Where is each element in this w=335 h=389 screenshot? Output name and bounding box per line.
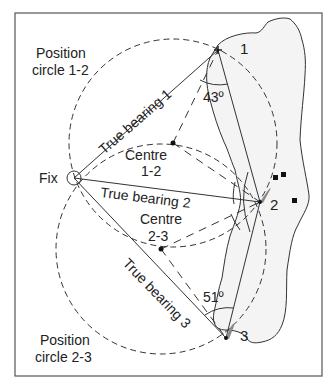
fix-label: Fix <box>39 170 58 186</box>
position-circle-2-3-label-line2: circle 2-3 <box>35 349 92 365</box>
true-bearing-2-label: True bearing 2 <box>100 184 192 211</box>
angle-51-label: 51º <box>203 289 224 305</box>
position-circle-1-2-label-line2: circle 1-2 <box>32 62 89 78</box>
centre-2-3-label-line1: Centre <box>140 211 182 227</box>
centre-1-2-label-line1: Centre <box>125 147 167 163</box>
angle-43-label: 43º <box>203 89 224 105</box>
centre-2-3-dot <box>159 247 164 252</box>
point-3-label: 3 <box>240 327 248 344</box>
centre-2-3-label-line2: 2-3 <box>148 228 168 244</box>
building-icon <box>273 175 278 180</box>
centre-1-2-label-line2: 1-2 <box>141 163 161 179</box>
position-circle-2-3-label-line1: Position <box>40 332 90 348</box>
diagram-canvas: Position circle 1-2 Position circle 2-3 … <box>0 0 335 389</box>
point-2-label: 2 <box>270 196 278 213</box>
building-icon <box>292 198 297 203</box>
point-1-label: 1 <box>240 40 248 57</box>
position-circle-1-2-label-line1: Position <box>36 45 86 61</box>
angle-arc-at-2-inner <box>233 182 235 204</box>
centre-1-2-dot <box>171 141 176 146</box>
building-icon <box>281 172 286 177</box>
